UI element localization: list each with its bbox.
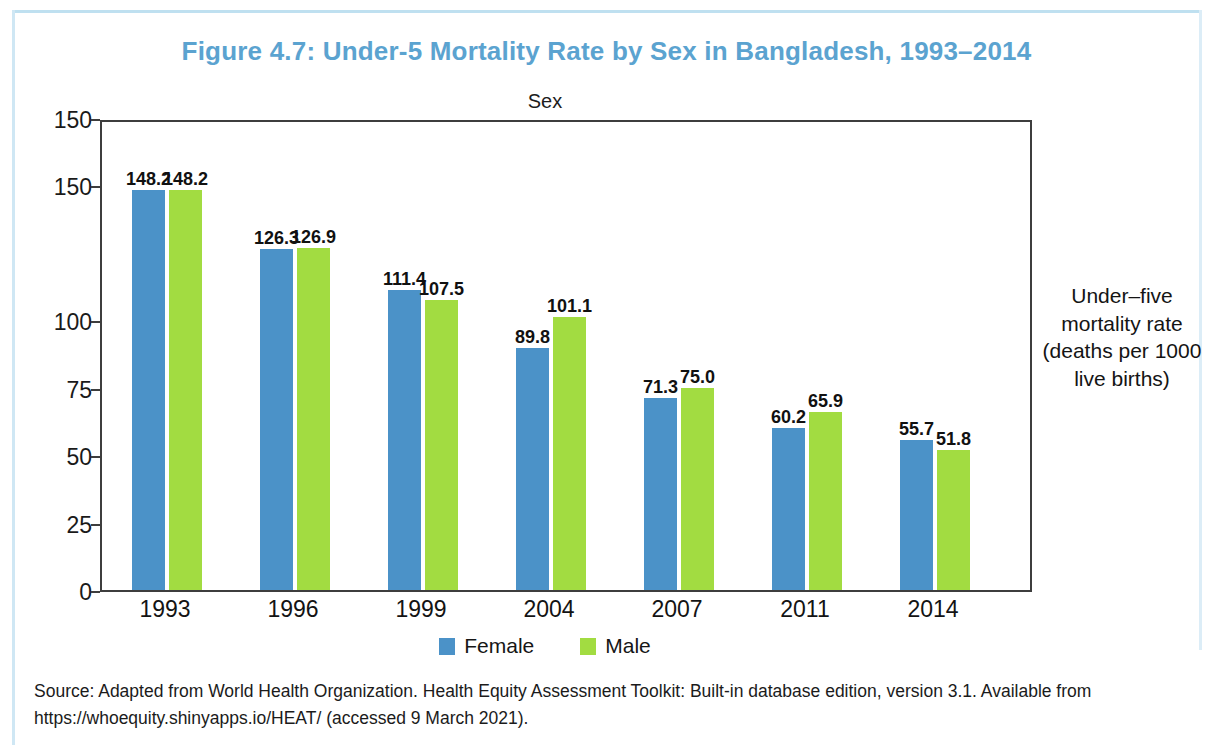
- bar-female-1996: [260, 249, 293, 590]
- x-tick-label-2004: 2004: [523, 596, 574, 623]
- y-tick-mark: [91, 321, 100, 323]
- y-axis-caption: Under–five mortality rate (deaths per 10…: [1036, 282, 1208, 393]
- y-tick-mark: [91, 119, 100, 121]
- bar-female-2011: [772, 428, 805, 590]
- plot-area: 148.2126.3111.489.871.360.255.7148.2126.…: [100, 120, 1032, 592]
- bar-value-label: 101.1: [542, 296, 598, 317]
- bar-male-2011: [809, 412, 842, 590]
- y-tick-label: 75: [66, 376, 92, 403]
- bar-value-label: 107.5: [414, 279, 470, 300]
- plot-inner: 148.2126.3111.489.871.360.255.7148.2126.…: [102, 122, 1030, 590]
- bar-value-label: 51.8: [926, 429, 982, 450]
- bar-female-1999: [388, 290, 421, 590]
- x-tick-label-1999: 1999: [395, 596, 446, 623]
- bar-male-1996: [297, 248, 330, 590]
- y-tick-mark: [91, 591, 100, 593]
- bar-male-2004: [553, 317, 586, 590]
- y-tick-label: 150: [54, 174, 92, 201]
- bar-value-label: 65.9: [798, 391, 854, 412]
- legend-swatch-icon: [580, 638, 596, 655]
- page-border-top: [12, 10, 1202, 13]
- figure-page: Figure 4.7: Under-5 Mortality Rate by Se…: [0, 0, 1213, 755]
- x-tick-label-2007: 2007: [651, 596, 702, 623]
- bar-female-2014: [900, 440, 933, 590]
- x-tick-label-2011: 2011: [780, 596, 829, 623]
- legend-label: Male: [605, 634, 651, 658]
- y-tick-mark: [91, 456, 100, 458]
- y-tick-label: 25: [66, 511, 92, 538]
- bar-male-2014: [937, 450, 970, 590]
- y-tick-mark: [91, 389, 100, 391]
- bar-female-2004: [516, 348, 549, 590]
- legend-label: Female: [464, 634, 534, 658]
- figure-title: Figure 4.7: Under-5 Mortality Rate by Se…: [0, 36, 1213, 67]
- bar-value-label: 126.9: [286, 227, 342, 248]
- y-tick-mark: [91, 186, 100, 188]
- bar-male-1993: [169, 190, 202, 590]
- y-tick-label: 50: [66, 444, 92, 471]
- bar-male-2007: [681, 388, 714, 590]
- y-axis-tick-labels: 1501501007550250: [30, 120, 92, 592]
- bar-male-1999: [425, 300, 458, 590]
- legend-item-female[interactable]: Female: [439, 634, 534, 658]
- source-note: Source: Adapted from World Health Organi…: [34, 678, 1194, 732]
- chart-legend: FemaleMale: [0, 634, 1090, 658]
- x-axis-tick-labels: 1993199619992004200720112014: [100, 596, 1032, 630]
- x-tick-label-1993: 1993: [139, 596, 190, 623]
- y-tick-label: 100: [54, 309, 92, 336]
- y-tick-mark: [91, 524, 100, 526]
- legend-title: Sex: [0, 90, 1090, 113]
- bar-female-1993: [132, 190, 165, 590]
- y-tick-label: 150: [54, 107, 92, 134]
- bar-value-label: 75.0: [670, 367, 726, 388]
- legend-item-male[interactable]: Male: [580, 634, 651, 658]
- x-tick-label-1996: 1996: [267, 596, 318, 623]
- bar-female-2007: [644, 398, 677, 590]
- bar-value-label: 148.2: [158, 169, 214, 190]
- legend-swatch-icon: [439, 638, 455, 655]
- x-tick-label-2014: 2014: [907, 596, 958, 623]
